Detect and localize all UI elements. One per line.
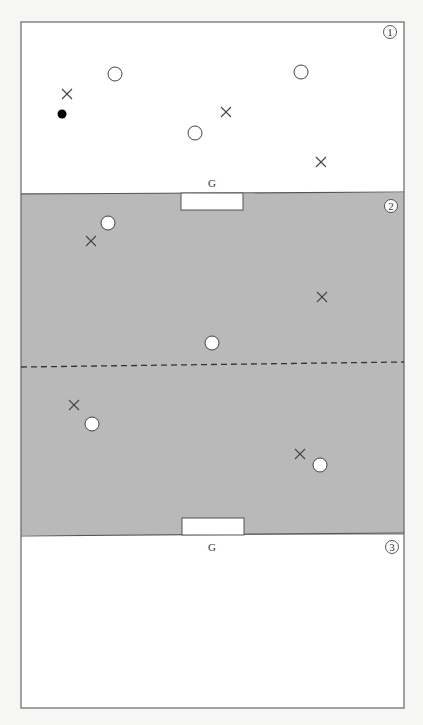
circle-player-icon — [108, 67, 122, 81]
circle-player-icon — [101, 216, 115, 230]
circle-player-icon — [313, 458, 327, 472]
svg-text:3: 3 — [389, 541, 395, 553]
zone-badge-2: 2 — [385, 200, 398, 213]
zone-1 — [21, 22, 404, 193]
goal-top — [181, 193, 243, 210]
svg-text:1: 1 — [387, 26, 393, 38]
circle-player-icon — [188, 126, 202, 140]
zone-badge-3: 3 — [386, 541, 399, 554]
goal-label-bottom: G — [208, 541, 216, 553]
circle-player-icon — [205, 336, 219, 350]
playing-field: G G 1 2 3 — [0, 0, 423, 725]
circle-player-icon — [85, 417, 99, 431]
zone-3 — [21, 535, 404, 708]
goal-bottom — [182, 518, 244, 535]
goal-label-top: G — [208, 177, 216, 189]
zone-badge-1: 1 — [384, 26, 397, 39]
circle-player-icon — [294, 65, 308, 79]
svg-text:2: 2 — [388, 200, 394, 212]
ball-icon — [58, 110, 67, 119]
